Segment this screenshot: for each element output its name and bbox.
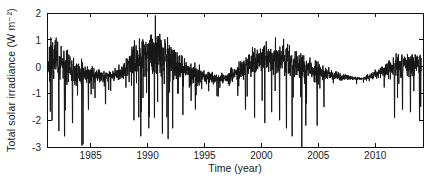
x-tick-label-1985: 1985 xyxy=(80,150,102,161)
y-tick-label-2: 2 xyxy=(17,8,41,19)
tsi-series-line xyxy=(48,16,421,147)
x-tick-label-2005: 2005 xyxy=(307,150,329,161)
y-tick-label--1: -1 xyxy=(17,88,41,99)
y-tick-label--2: -2 xyxy=(17,115,41,126)
x-tick-label-2010: 2010 xyxy=(364,150,386,161)
x-tick-label-2000: 2000 xyxy=(250,150,272,161)
x-tick-label-1990: 1990 xyxy=(137,150,159,161)
x-axis-label: Time (year) xyxy=(208,162,261,174)
y-axis-label: Total solar irradiance (W m⁻²) xyxy=(5,8,17,152)
y-tick-label-1: 1 xyxy=(17,34,41,45)
solar-irradiance-figure: Total solar irradiance (W m⁻²) Time (yea… xyxy=(0,0,438,188)
y-tick-label-0: 0 xyxy=(17,61,41,72)
x-tick-label-1995: 1995 xyxy=(193,150,215,161)
y-tick-label--3: -3 xyxy=(17,142,41,153)
